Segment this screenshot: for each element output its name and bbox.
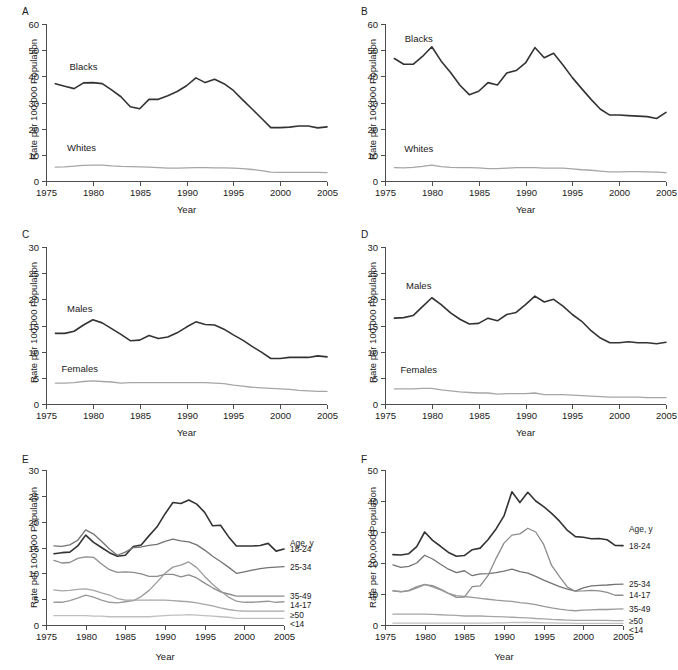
series-line-females (394, 388, 666, 397)
plot-area-b: 0102030405060197519801985199019952000200… (339, 0, 678, 223)
y-tick-label: 20 (28, 294, 39, 305)
y-tick-label: 50 (367, 465, 378, 476)
y-tick-label: 25 (28, 491, 39, 502)
y-tick-label: 60 (367, 19, 378, 30)
series-line--14 (54, 615, 284, 619)
series-line-males (394, 296, 666, 344)
x-tick-label: 2000 (573, 631, 594, 642)
y-tick-label: 20 (28, 124, 39, 135)
y-tick-label: 15 (367, 321, 378, 332)
series-line-35-49 (54, 557, 284, 596)
series-label-females: Females (62, 363, 99, 374)
x-tick-label: 2005 (656, 410, 677, 421)
y-tick-label: 0 (34, 399, 39, 410)
y-tick-label: 40 (367, 496, 378, 507)
y-tick-label: 0 (373, 399, 378, 410)
x-tick-label: 2005 (656, 187, 677, 198)
y-tick-label: 50 (367, 45, 378, 56)
series-line-25-34 (54, 530, 284, 573)
y-tick-label: 10 (367, 150, 378, 161)
y-tick-label: 60 (28, 19, 39, 30)
series-label-whites: Whites (67, 142, 96, 153)
y-tick-label: 0 (34, 620, 39, 631)
plot-area-a: 0102030405060197519801985199019952000200… (0, 0, 339, 223)
x-tick-label: 1990 (494, 631, 515, 642)
y-tick-label: 25 (367, 268, 378, 279)
series-line-18-24 (393, 492, 623, 556)
x-tick-label: 1995 (223, 410, 244, 421)
x-tick-label: 1985 (130, 187, 151, 198)
x-tick-label: 1990 (177, 410, 198, 421)
y-tick-label: 5 (34, 594, 39, 605)
x-tick-label: 1985 (469, 410, 490, 421)
legend-label-18-24: 18-24 (290, 544, 312, 554)
x-tick-label: 1990 (516, 410, 537, 421)
legend-label-18-24: 18-24 (629, 541, 651, 551)
y-tick-label: 15 (28, 321, 39, 332)
series-line-35-49 (393, 584, 623, 610)
y-tick-label: 5 (373, 373, 378, 384)
y-tick-label: 20 (367, 558, 378, 569)
series-label-blacks: Blacks (69, 61, 97, 72)
legend-label-25-34: 25-34 (629, 579, 651, 589)
x-tick-label: 1980 (415, 631, 436, 642)
x-tick-label: 1980 (83, 187, 104, 198)
x-tick-label: 1995 (562, 187, 583, 198)
y-tick-label: 30 (28, 465, 39, 476)
x-tick-label: 1995 (223, 187, 244, 198)
series-line-blacks (55, 78, 327, 128)
x-tick-label: 1975 (36, 631, 57, 642)
y-tick-label: 0 (373, 176, 378, 187)
x-tick-label: 1980 (422, 410, 443, 421)
y-tick-label: 5 (34, 373, 39, 384)
series-label-blacks: Blacks (405, 33, 433, 44)
x-tick-label: 1990 (516, 187, 537, 198)
y-tick-label: 10 (367, 347, 378, 358)
plot-area-d: 0510152025301975198019851990199520002005… (339, 223, 678, 446)
y-tick-label: 10 (28, 568, 39, 579)
legend-label-25-34: 25-34 (290, 562, 312, 572)
panel-c: CRate per 100,000 PopulationYear05101520… (0, 223, 339, 446)
x-tick-label: 2000 (609, 410, 630, 421)
plot-area-f: 010203040501975198019851990199520002005A… (339, 448, 678, 670)
legend-title: Age, y (629, 524, 654, 534)
legend-label--14: <14 (629, 625, 644, 635)
panel-b: BRate per 100,000 PopulationYear01020304… (339, 0, 678, 223)
x-tick-label: 1990 (155, 631, 176, 642)
legend-label-35-49: 35-49 (629, 604, 651, 614)
y-tick-label: 30 (28, 242, 39, 253)
y-tick-label: 15 (28, 543, 39, 554)
y-tick-label: 0 (373, 620, 378, 631)
series-line-whites (394, 165, 666, 173)
series-label-males: Males (67, 303, 93, 314)
x-tick-label: 2005 (317, 187, 338, 198)
y-tick-label: 50 (28, 45, 39, 56)
panel-d: DRate per 100,000 PopulationYear05101520… (339, 223, 678, 446)
y-tick-label: 25 (28, 268, 39, 279)
y-tick-label: 30 (367, 242, 378, 253)
x-tick-label: 1975 (375, 410, 396, 421)
x-tick-label: 1985 (115, 631, 136, 642)
x-tick-label: 2000 (609, 187, 630, 198)
y-tick-label: 10 (28, 347, 39, 358)
y-tick-label: 30 (367, 98, 378, 109)
x-tick-label: 1985 (454, 631, 475, 642)
x-tick-label: 1975 (375, 187, 396, 198)
x-tick-label: 2005 (317, 410, 338, 421)
x-tick-label: 1980 (83, 410, 104, 421)
series-label-females: Females (401, 364, 438, 375)
series-line-whites (55, 165, 327, 173)
legend-label--14: <14 (290, 619, 305, 629)
y-tick-label: 40 (28, 71, 39, 82)
x-tick-label: 1975 (36, 410, 57, 421)
series-line--50 (54, 589, 284, 611)
series-line-blacks (394, 47, 666, 119)
y-tick-label: 30 (367, 527, 378, 538)
panel-f: FRate per 100,000 PopulationYear01020304… (339, 448, 678, 670)
panel-a: ARate per 100,000 PopulationYear01020304… (0, 0, 339, 223)
panel-e: ERate per 100,000 PopulationYear05101520… (0, 448, 339, 670)
plot-area-e: 0510152025301975198019851990199520002005… (0, 448, 339, 670)
x-tick-label: 1980 (76, 631, 97, 642)
series-line--14 (393, 623, 623, 624)
y-tick-label: 30 (28, 98, 39, 109)
